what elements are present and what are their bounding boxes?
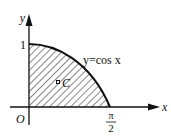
centroid-label: C [62, 76, 71, 90]
y-tick-one: 1 [20, 38, 26, 52]
x-axis-arrow-icon [148, 104, 160, 111]
origin-label: O [16, 112, 25, 126]
centroid-point [57, 81, 60, 84]
curve-label: y=cos x [83, 53, 121, 67]
y-axis-arrow-icon [26, 14, 33, 26]
cosine-area-diagram: y x O 1 π 2 y=cos x C [0, 0, 171, 139]
x-tick-pi-numerator: π [108, 110, 113, 121]
x-tick-pi-denominator: 2 [108, 122, 114, 134]
x-axis-label: x [161, 100, 168, 114]
y-axis-label: y [19, 11, 26, 25]
